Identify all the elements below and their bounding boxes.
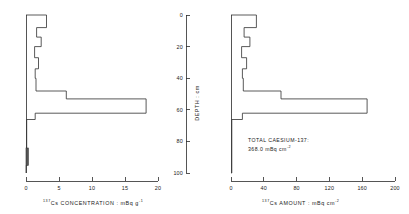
left-chart-x-axis-label: 137Cs CONCENTRATION : mBq g-1 [43,199,143,206]
left-xtick-1: 5 [57,185,60,191]
right-chart-x-ticklabels: 0 40 80 120 160 200 [229,185,399,191]
left-xlabel-unit-sup: -1 [139,199,143,203]
left-chart-x-ticklabels: 0 5 10 15 20 [24,185,161,191]
left-xtick-4: 20 [155,185,161,191]
left-xtick-3: 15 [122,185,128,191]
right-xlabel-isotope-sup: 137 [262,199,270,203]
right-xtick-40: 40 [261,185,267,191]
left-xlabel-isotope-sup: 137 [43,199,51,203]
right-xtick-160: 160 [357,185,367,191]
depth-axis-group: 0 20 40 60 80 100 DEPTH : cm [173,12,200,176]
left-chart-deep-tail [26,148,28,165]
depth-tick-100: 100 [173,170,183,176]
chart-canvas: 0 5 10 15 20 137Cs CONCENTRATION : mBq g… [0,0,409,214]
left-xlabel-isotope: Cs [51,200,59,206]
right-xlabel-quantity: AMOUNT [279,200,306,206]
depth-tick-20: 20 [177,44,183,50]
svg-text:137Cs CONCENTRATION : mBq g-: 137Cs CONCENTRATION : mBq g-1 [43,199,143,206]
left-chart-x-ticks [26,177,158,181]
total-caesium-annotation: TOTAL CAESIUM-137: 368.0 mBq cm-2 [248,137,309,152]
annotation-line-2: 368.0 mBq cm-2 [248,145,291,152]
right-xtick-80: 80 [293,185,299,191]
svg-text:137Cs AMOUNT : mBq cm-2: 137Cs AMOUNT : mBq cm-2 [262,199,339,206]
left-chart-group: 0 5 10 15 20 137Cs CONCENTRATION : mBq g… [24,15,161,206]
depth-tick-80: 80 [177,138,183,144]
right-xlabel-unit: mBq cm [312,200,335,206]
depth-axis-ticks [186,15,190,173]
figure-container: 0 5 10 15 20 137Cs CONCENTRATION : mBq g… [0,0,409,214]
right-xlabel-isotope: Cs [270,200,278,206]
left-xtick-2: 10 [89,185,95,191]
depth-tick-60: 60 [177,107,183,113]
right-chart-x-ticks [231,177,395,181]
annotation-line-1: TOTAL CAESIUM-137: [248,137,309,143]
annotation-total-value: 368.0 [248,146,263,152]
left-xlabel-unit: mBq g [121,200,139,206]
left-xlabel-quantity: CONCENTRATION [61,200,115,206]
left-chart-step-profile [26,15,146,148]
depth-tick-0: 0 [180,12,183,18]
annotation-total-unit: mBq cm [265,146,287,152]
right-xtick-0: 0 [229,185,232,191]
depth-axis-label: DEPTH : cm [194,85,200,121]
depth-label-unit: cm [194,85,200,93]
depth-label-quantity: DEPTH [194,100,200,121]
right-xtick-120: 120 [325,185,335,191]
right-xlabel-unit-sup: -2 [335,199,339,203]
right-chart-group: 0 40 80 120 160 200 137Cs AMOUNT : mBq c… [229,15,399,206]
annotation-total-unit-sup: -2 [287,145,291,149]
depth-tick-40: 40 [177,75,183,81]
svg-text:DEPTH : cm: DEPTH : cm [194,85,200,121]
left-xtick-0: 0 [24,185,27,191]
depth-axis-ticklabels: 0 20 40 60 80 100 [173,12,183,176]
right-xtick-200: 200 [390,185,400,191]
right-chart-x-axis-label: 137Cs AMOUNT : mBq cm-2 [262,199,339,206]
